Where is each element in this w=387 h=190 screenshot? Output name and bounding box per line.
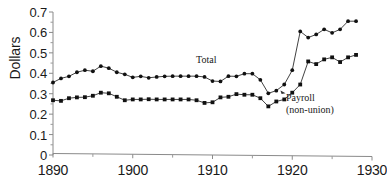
data-point <box>123 98 127 102</box>
series-label-total: Total <box>196 54 216 66</box>
axes-group <box>49 12 372 161</box>
data-point <box>322 27 326 31</box>
data-point <box>99 64 103 68</box>
x-axis-tick-label: 1890 <box>38 162 68 178</box>
y-axis-tick-label: 0.6 <box>10 25 47 40</box>
data-point <box>187 74 191 78</box>
series-label-payroll-line2: (non-union) <box>286 104 334 116</box>
x-axis-tick-label: 1900 <box>118 162 148 178</box>
data-point <box>346 55 350 59</box>
data-point <box>219 80 223 84</box>
data-point <box>195 74 199 78</box>
payroll-pointer-arrow <box>281 91 286 95</box>
data-point <box>354 53 358 57</box>
data-point <box>75 95 79 99</box>
data-point <box>219 95 223 99</box>
data-point <box>274 89 278 93</box>
data-point <box>195 98 199 102</box>
x-axis-tick-label: 1930 <box>357 162 387 178</box>
data-point <box>330 31 334 35</box>
data-point <box>91 69 95 73</box>
data-point <box>123 72 127 76</box>
data-point <box>171 98 175 102</box>
y-axis-tick-label: 0.1 <box>10 127 47 142</box>
y-axis-tick-label: 0.2 <box>10 107 47 122</box>
data-point <box>250 72 254 76</box>
data-point <box>258 78 262 82</box>
data-point <box>330 55 334 59</box>
data-point <box>282 83 286 87</box>
data-point <box>179 74 183 78</box>
data-point <box>211 79 215 83</box>
data-point <box>83 68 87 72</box>
data-point <box>59 99 63 103</box>
data-point <box>83 95 87 99</box>
y-axis-tick-label: 0.4 <box>10 66 47 81</box>
data-point <box>227 95 231 99</box>
data-point <box>274 100 278 104</box>
y-axis-tick-label: 0 <box>10 148 47 163</box>
data-point <box>354 19 358 23</box>
data-point <box>266 91 270 95</box>
data-point <box>115 95 119 99</box>
data-point <box>179 98 183 102</box>
x-axis-tick-label: 1920 <box>277 162 307 178</box>
data-point <box>298 83 302 87</box>
data-point <box>203 101 207 105</box>
data-point <box>298 30 302 34</box>
data-point <box>338 27 342 31</box>
data-point <box>243 93 247 97</box>
data-point <box>211 100 215 104</box>
data-point <box>163 74 167 78</box>
data-point <box>67 96 71 100</box>
data-point <box>147 97 151 101</box>
data-point <box>155 75 159 79</box>
data-point <box>338 60 342 64</box>
data-point <box>139 74 143 78</box>
data-point <box>107 91 111 95</box>
data-point <box>306 60 310 64</box>
data-point <box>139 98 143 102</box>
data-point <box>187 98 191 102</box>
data-point <box>258 96 262 100</box>
data-point <box>266 104 270 108</box>
series-label-payroll: Payroll (non-union) <box>286 92 334 116</box>
data-point <box>243 72 247 76</box>
data-point <box>91 94 95 98</box>
y-axis-tick-label: 0.3 <box>10 86 47 101</box>
data-point <box>67 74 71 78</box>
data-point <box>346 19 350 23</box>
data-point <box>155 98 159 102</box>
data-point <box>75 70 79 74</box>
y-axis-tick-label: 0.5 <box>10 45 47 60</box>
data-point <box>107 66 111 70</box>
data-point <box>203 75 207 79</box>
y-axis-tick-label: 0.7 <box>10 5 47 20</box>
data-point <box>235 74 239 78</box>
data-point <box>59 76 63 80</box>
data-point <box>235 92 239 96</box>
data-point <box>147 76 151 80</box>
payroll-pointer-icon <box>281 91 286 95</box>
data-point <box>322 57 326 61</box>
data-point <box>131 75 135 79</box>
x-axis-tick-label: 1910 <box>197 162 227 178</box>
data-point <box>115 70 119 74</box>
data-point <box>99 91 103 95</box>
data-point <box>314 33 318 37</box>
data-point <box>250 93 254 97</box>
data-point <box>306 36 310 40</box>
series-label-payroll-line1: Payroll <box>286 92 334 104</box>
data-point <box>51 98 55 102</box>
data-point <box>51 81 55 85</box>
data-point <box>163 98 167 102</box>
data-point <box>290 68 294 72</box>
data-point <box>314 62 318 66</box>
data-point <box>171 74 175 78</box>
data-point <box>131 98 135 102</box>
data-point <box>227 74 231 78</box>
